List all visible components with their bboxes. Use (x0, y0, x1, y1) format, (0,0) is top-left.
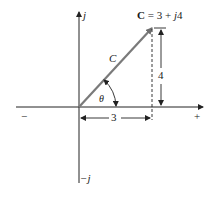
horizontal-dimension-label: 3 (111, 112, 117, 123)
vector-c-arrow (79, 28, 152, 107)
angle-arc (104, 80, 116, 106)
vertical-dimension-label: 4 (158, 70, 164, 81)
phasor-symbol: C (137, 9, 145, 21)
imag-axis-positive-label: j (83, 10, 86, 21)
real-axis-positive-label: + (194, 111, 200, 122)
phasor-diagram: C = 3 + j4 j −j − + C θ 3 4 (0, 0, 219, 199)
real-axis-negative-label: − (21, 111, 27, 122)
phasor-value-label: C = 3 + j4 (137, 10, 182, 21)
imaginary-value: 4 (177, 9, 183, 21)
angle-label: θ (99, 94, 104, 104)
vector-label: C (109, 53, 116, 64)
imag-axis-negative-label: −j (80, 173, 90, 184)
phasor-equals-text: = 3 + (145, 9, 174, 21)
